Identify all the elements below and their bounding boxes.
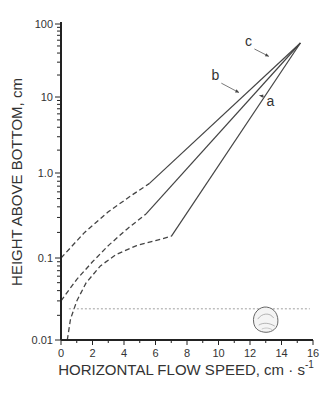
y-tick-label: 0.1 <box>38 252 53 264</box>
y-axis-title: HEIGHT ABOVE BOTTOM, cm <box>8 78 25 286</box>
annotations <box>69 307 310 332</box>
x-tick-label: 8 <box>184 347 190 359</box>
x-tick-label: 12 <box>244 347 256 359</box>
series-label-c: c <box>245 33 252 49</box>
series-b-solid <box>146 43 300 214</box>
series-c-dashed <box>61 184 149 258</box>
x-tick-label: 14 <box>275 347 287 359</box>
shell-icon <box>253 307 277 332</box>
y-tick-label: 0.01 <box>32 334 53 346</box>
series-label-a: a <box>267 93 275 109</box>
plot-series <box>61 43 300 340</box>
series-labels: cba <box>211 33 274 110</box>
series-c-solid <box>149 43 300 184</box>
flow-speed-chart: 02468101214160.010.11.010100 cba HEIGHT … <box>0 0 332 397</box>
y-tick-label: 100 <box>35 18 53 30</box>
x-axis-title: HORIZONTAL FLOW SPEED, cm · s-1 <box>58 359 314 378</box>
series-a-solid <box>171 43 300 236</box>
x-tick-label: 0 <box>58 347 64 359</box>
series-a-dashed <box>67 236 171 340</box>
y-tick-label: 10 <box>41 91 53 103</box>
x-tick-label: 4 <box>121 347 127 359</box>
x-tick-label: 2 <box>89 347 95 359</box>
series-b-dashed <box>61 214 146 301</box>
series-label-b: b <box>211 67 219 83</box>
y-tick-label: 1.0 <box>38 167 53 179</box>
x-tick-label: 16 <box>307 347 319 359</box>
x-tick-label: 10 <box>212 347 224 359</box>
x-tick-label: 6 <box>152 347 158 359</box>
